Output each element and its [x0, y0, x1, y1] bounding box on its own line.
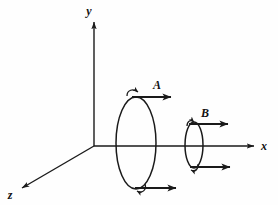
coordinate-diagram: y x z A B — [0, 0, 278, 205]
axis-group: y x z — [7, 4, 267, 202]
loop-a-label: A — [152, 78, 161, 92]
loop-a-ellipse — [116, 97, 156, 189]
loop-b-ellipse — [185, 122, 203, 168]
figure-canvas: y x z A B — [0, 0, 278, 205]
axis-x-label: x — [260, 139, 267, 153]
axis-y-label: y — [84, 4, 92, 18]
loop-b-label: B — [200, 106, 209, 120]
axis-y: y — [84, 4, 94, 146]
loop-a-top-curl-icon — [127, 90, 138, 96]
axis-z: z — [7, 146, 94, 202]
axis-z-line — [22, 146, 94, 188]
loop-a-group: A — [116, 78, 176, 192]
loop-b-group: B — [185, 106, 230, 171]
axis-x: x — [94, 139, 267, 153]
axis-z-label: z — [7, 188, 13, 202]
